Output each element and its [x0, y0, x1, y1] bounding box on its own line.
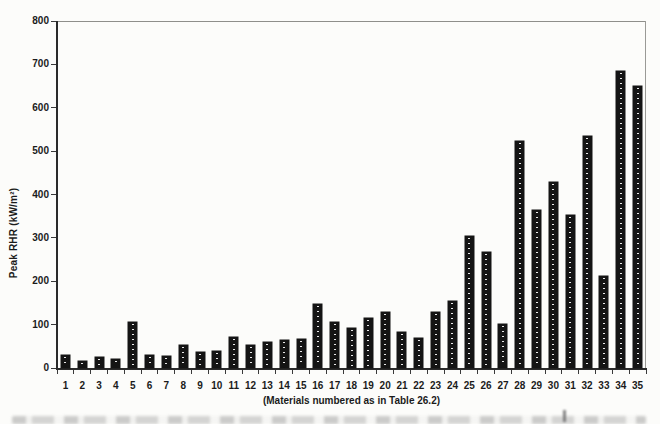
- x-axis-tick: [275, 370, 276, 374]
- bar-material-29: [532, 210, 541, 368]
- bar-material-32: [583, 136, 592, 368]
- x-axis-tick: [174, 370, 175, 374]
- bar-material-18: [347, 328, 356, 368]
- plot-frame-right: [645, 21, 646, 368]
- x-axis-tick: [292, 370, 293, 374]
- bar-material-6: [145, 355, 154, 368]
- bar-material-35: [633, 86, 642, 368]
- x-axis-tick: [242, 370, 243, 374]
- bar-material-27: [498, 324, 507, 368]
- x-axis-title: (Materials numbered as in Table 26.2): [57, 395, 646, 406]
- x-axis-tick: [376, 370, 377, 374]
- bar-material-25: [465, 236, 474, 368]
- bar-material-8: [179, 345, 188, 368]
- bar-material-24: [448, 301, 457, 368]
- bar-material-31: [566, 215, 575, 368]
- bar-material-9: [196, 352, 205, 368]
- x-axis-tick: [57, 370, 58, 374]
- x-axis-line: [56, 368, 647, 370]
- y-axis-tick-label: 0: [0, 362, 49, 374]
- y-axis-tick: [51, 324, 56, 325]
- bar-material-7: [162, 356, 171, 368]
- bar-material-16: [313, 304, 322, 368]
- y-axis-tick: [51, 194, 56, 195]
- bar-material-21: [397, 332, 406, 368]
- x-axis-tick: [545, 370, 546, 374]
- y-axis-tick-label: 200: [0, 275, 49, 287]
- y-axis-tick-label: 600: [0, 102, 49, 114]
- x-axis-tick: [107, 370, 108, 374]
- cut-off-caption-glyph-artifact: [563, 410, 566, 422]
- y-axis-tick: [51, 64, 56, 65]
- bar-material-22: [414, 338, 423, 368]
- x-axis-tick: [494, 370, 495, 374]
- bar-material-10: [212, 351, 221, 368]
- x-axis-tick: [612, 370, 613, 374]
- x-axis-tick: [359, 370, 360, 374]
- bar-material-19: [364, 318, 373, 368]
- x-axis-tick: [124, 370, 125, 374]
- x-axis-tick: [427, 370, 428, 374]
- x-axis-tick: [141, 370, 142, 374]
- bar-material-5: [128, 322, 137, 368]
- y-axis-tick-label: 400: [0, 189, 49, 201]
- y-axis-tick: [51, 237, 56, 238]
- x-axis-tick: [258, 370, 259, 374]
- y-axis-tick: [51, 368, 56, 369]
- bar-material-34: [616, 71, 625, 368]
- y-axis-tick-label: 100: [0, 319, 49, 331]
- bar-material-33: [599, 276, 608, 368]
- bar-material-26: [482, 252, 491, 368]
- plot-frame-top: [57, 21, 646, 22]
- x-axis-tick: [225, 370, 226, 374]
- bar-material-1: [61, 355, 70, 368]
- x-axis-tick: [73, 370, 74, 374]
- x-axis-tick: [477, 370, 478, 374]
- bar-material-14: [280, 340, 289, 368]
- x-axis-tick: [191, 370, 192, 374]
- bar-material-13: [263, 342, 272, 368]
- x-axis-tick: [410, 370, 411, 374]
- bar-material-4: [111, 359, 120, 368]
- cut-off-caption-artifact: [12, 416, 646, 424]
- y-axis-line: [56, 21, 58, 369]
- x-axis-tick: [343, 370, 344, 374]
- x-axis-tick: [460, 370, 461, 374]
- x-axis-tick: [157, 370, 158, 374]
- x-axis-tick: [444, 370, 445, 374]
- x-axis-tick: [309, 370, 310, 374]
- bar-material-23: [431, 312, 440, 368]
- bar-material-2: [78, 361, 87, 368]
- x-axis-tick: [646, 370, 647, 374]
- y-axis-tick-label: 300: [0, 232, 49, 244]
- y-axis-tick-label: 500: [0, 145, 49, 157]
- bar-material-15: [297, 339, 306, 368]
- y-axis-tick: [51, 281, 56, 282]
- x-axis-tick: [561, 370, 562, 374]
- bar-material-12: [246, 345, 255, 368]
- x-axis-tick-label: 35: [626, 380, 649, 392]
- x-axis-tick: [208, 370, 209, 374]
- y-axis-tick: [51, 21, 56, 22]
- y-axis-tick: [51, 151, 56, 152]
- x-axis-tick: [595, 370, 596, 374]
- scanned-bar-chart-figure: Peak RHR (kW/m²) (Materials numbered as …: [0, 0, 660, 424]
- y-axis-tick-label: 700: [0, 58, 49, 70]
- x-axis-tick: [511, 370, 512, 374]
- x-axis-tick: [90, 370, 91, 374]
- x-axis-tick: [629, 370, 630, 374]
- x-axis-tick: [578, 370, 579, 374]
- y-axis-tick-label: 800: [0, 15, 49, 27]
- x-axis-tick: [326, 370, 327, 374]
- bar-material-30: [549, 182, 558, 368]
- x-axis-tick: [528, 370, 529, 374]
- bar-material-3: [95, 357, 104, 368]
- y-axis-tick: [51, 107, 56, 108]
- x-axis-tick: [393, 370, 394, 374]
- bar-material-20: [381, 312, 390, 368]
- bar-material-28: [515, 141, 524, 368]
- bar-material-11: [229, 337, 238, 368]
- bar-material-17: [330, 322, 339, 368]
